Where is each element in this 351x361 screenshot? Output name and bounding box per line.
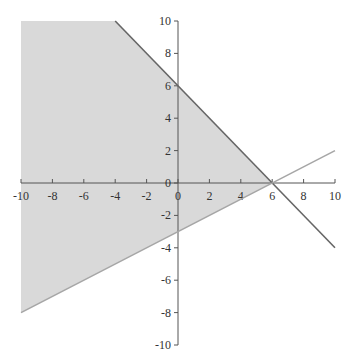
y-tick-label: -10 — [155, 338, 171, 352]
y-tick-label: 4 — [165, 111, 171, 125]
x-tick-label: 6 — [269, 189, 275, 203]
y-tick-label: -2 — [161, 208, 171, 222]
x-tick-label: 2 — [206, 189, 212, 203]
y-tick-label: -4 — [161, 241, 171, 255]
y-tick-label: 2 — [165, 144, 171, 158]
shaded-region — [21, 21, 272, 313]
x-tick-label: 0 — [175, 189, 181, 203]
x-tick-label: -4 — [110, 189, 120, 203]
chart: -10-8-6-4-20246810-10-8-6-4-22468100 — [0, 0, 351, 361]
x-tick-label: 8 — [301, 189, 307, 203]
y-tick-label: -6 — [161, 273, 171, 287]
x-tick-label: -8 — [47, 189, 57, 203]
x-tick-label: 10 — [329, 189, 341, 203]
y-tick-label: 8 — [165, 46, 171, 60]
y-tick-label: 0 — [165, 176, 171, 190]
x-tick-label: -2 — [142, 189, 152, 203]
y-tick-label: -8 — [161, 306, 171, 320]
y-tick-label: 10 — [159, 14, 171, 28]
y-tick-label: 6 — [165, 79, 171, 93]
x-tick-label: -6 — [79, 189, 89, 203]
x-tick-label: -10 — [13, 189, 29, 203]
